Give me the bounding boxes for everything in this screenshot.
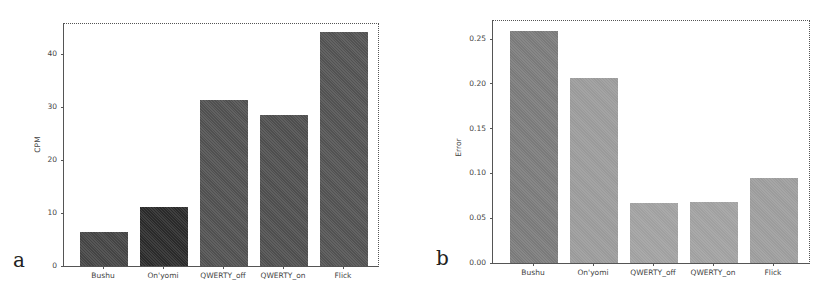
- x-tick-mark: [533, 263, 534, 266]
- bar-qwerty-on: [690, 202, 738, 263]
- bar-qwerty-off: [630, 203, 678, 263]
- y-tick-label: 0.25: [460, 34, 486, 43]
- x-tick-label: On'yomi: [563, 268, 623, 277]
- bar-on-yomi: [570, 78, 618, 263]
- y-axis-label-b: Error: [454, 133, 463, 163]
- plot-area-b: [492, 20, 810, 264]
- bar-bushu: [510, 31, 558, 263]
- y-tick-label: 0.15: [460, 124, 486, 133]
- y-tick-label: 0.20: [460, 79, 486, 88]
- y-axis-line-b: [492, 20, 493, 264]
- x-tick-mark: [713, 263, 714, 266]
- x-tick-label: Bushu: [503, 268, 563, 277]
- x-tick-label: Flick: [743, 268, 803, 277]
- x-tick-mark: [593, 263, 594, 266]
- x-tick-label: QWERTY_on: [683, 268, 743, 277]
- bar-flick: [750, 178, 798, 263]
- chart-panel-b: b Error 0.000.050.100.150.200.25 BushuOn…: [0, 0, 828, 305]
- x-axis-line-b: [492, 263, 810, 264]
- x-tick-label: QWERTY_off: [623, 268, 683, 277]
- x-tick-mark: [773, 263, 774, 266]
- y-tick-label: 0.00: [460, 258, 486, 267]
- y-tick-label: 0.10: [460, 168, 486, 177]
- y-tick-label: 0.05: [460, 213, 486, 222]
- panel-label-b: b: [436, 246, 449, 270]
- x-tick-mark: [653, 263, 654, 266]
